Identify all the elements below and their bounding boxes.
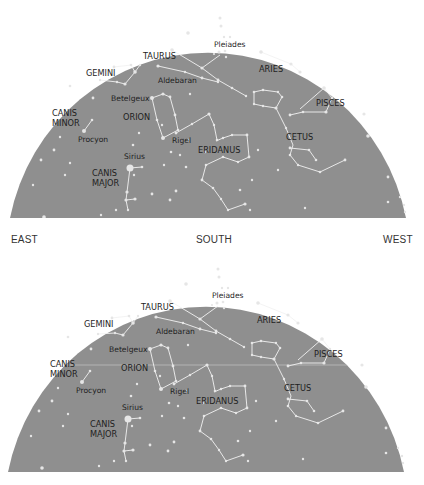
sky-background	[10, 53, 406, 218]
label-canis-minor-1: CANIS	[50, 359, 75, 369]
label-canis-major-2: MAJOR	[92, 178, 120, 188]
label-eridanus: ERIDANUS	[196, 396, 238, 406]
label-cetus: CETUS	[284, 383, 311, 393]
star-chart-bottom: TAURUS Pleiades ARIES GEMINI Aldebaran B…	[0, 254, 424, 472]
sky-dome-bottom: TAURUS Pleiades ARIES GEMINI Aldebaran B…	[0, 254, 424, 472]
label-procyon: Procyon	[78, 135, 108, 144]
label-betelgeux: Betelgeux	[111, 94, 150, 103]
label-orion: ORION	[121, 363, 148, 373]
label-gemini: GEMINI	[84, 319, 114, 329]
direction-south: SOUTH	[196, 234, 232, 245]
label-canis-major-1: CANIS	[90, 419, 115, 429]
label-canis-minor-2: MINOR	[50, 369, 78, 379]
label-canis-minor-1: CANIS	[52, 108, 77, 118]
star-chart-top: TAURUS Pleiades ARIES GEMINI Aldebaran B…	[0, 0, 424, 218]
label-pleiades: Pleiades	[212, 291, 244, 300]
label-canis-major-2: MAJOR	[90, 429, 118, 439]
label-cetus: CETUS	[286, 132, 313, 142]
label-pleiades: Pleiades	[214, 40, 246, 49]
label-rigel: Rigel	[172, 136, 191, 145]
label-canis-major-1: CANIS	[92, 168, 117, 178]
label-taurus: TAURUS	[142, 51, 176, 61]
label-eridanus: ERIDANUS	[198, 145, 240, 155]
label-aldebaran: Aldebaran	[156, 327, 195, 336]
label-sirius: Sirius	[124, 152, 145, 161]
label-aldebaran: Aldebaran	[158, 76, 197, 85]
label-canis-minor-2: MINOR	[52, 118, 80, 128]
label-taurus: TAURUS	[140, 302, 174, 312]
label-orion: ORION	[123, 112, 150, 122]
label-aries: ARIES	[257, 315, 281, 325]
label-rigel: Rigel	[170, 387, 189, 396]
direction-east: EAST	[11, 234, 38, 245]
label-procyon: Procyon	[76, 386, 106, 395]
label-gemini: GEMINI	[86, 68, 116, 78]
label-pisces: PISCES	[314, 349, 343, 359]
label-sirius: Sirius	[122, 403, 143, 412]
direction-west: WEST	[383, 234, 413, 245]
label-aries: ARIES	[259, 64, 283, 74]
sky-dome-top: TAURUS Pleiades ARIES GEMINI Aldebaran B…	[0, 0, 424, 218]
label-pisces: PISCES	[316, 98, 345, 108]
sky-background	[8, 307, 404, 472]
label-betelgeux: Betelgeux	[109, 345, 148, 354]
